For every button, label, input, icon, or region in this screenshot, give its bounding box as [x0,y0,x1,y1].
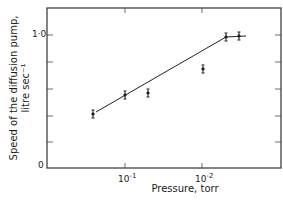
fit-line [96,36,246,112]
x-ticks [125,8,202,168]
y-axis-title: Speed of the diffusion pump, litre sec⁻¹ [0,0,40,203]
x-tick-exp: -2 [206,172,213,180]
data-point [202,65,205,73]
y-ticks-right [275,35,281,142]
y-ticks-left [47,35,53,142]
y-axis-title-line2: litre sec⁻¹ [20,16,32,161]
plot-frame [47,8,281,168]
x-axis-title: Pressure, torr [125,183,245,194]
data-points [92,32,241,118]
data-point [92,110,95,118]
y-axis-title-line1: Speed of the diffusion pump, [8,16,20,161]
data-point [225,33,228,41]
data-point [124,91,127,99]
data-point [147,89,150,97]
x-tick-exp: -1 [129,172,136,180]
data-point [238,32,241,40]
